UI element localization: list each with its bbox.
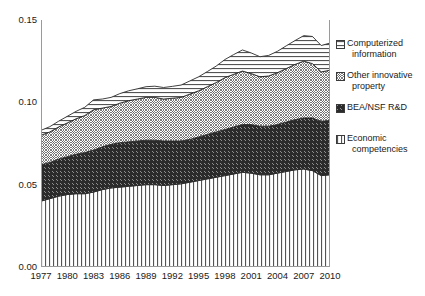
x-tick-label: 1986 xyxy=(109,270,130,281)
legend-swatch-vertical-lines-icon xyxy=(336,135,345,144)
legend-label: BEA/NSF R&D xyxy=(347,102,407,113)
chart-legend: Computerized informationOther innovative… xyxy=(336,38,425,165)
x-tick-label: 1995 xyxy=(188,270,209,281)
x-tick-label: 2001 xyxy=(241,270,262,281)
stacked-area-chart xyxy=(41,20,330,267)
x-tick-label: 1989 xyxy=(136,270,157,281)
legend-item: Other innovative property xyxy=(336,70,425,91)
chart-screenshot: 0.000.050.100.15 xyxy=(0,0,425,296)
x-axis-labels: 1977198019831986198919921995199820012004… xyxy=(41,270,330,286)
legend-label-line1: Other innovative xyxy=(347,70,413,80)
x-tick-label: 1977 xyxy=(30,270,51,281)
x-tick-label: 2004 xyxy=(267,270,288,281)
x-tick-label: 1998 xyxy=(214,270,235,281)
x-tick-label: 1983 xyxy=(83,270,104,281)
legend-label: Economic competencies xyxy=(347,133,408,154)
y-tick-label: 0.15 xyxy=(19,15,38,25)
legend-label-line2: information xyxy=(352,49,397,59)
area-bands xyxy=(41,36,330,267)
legend-item: Computerized information xyxy=(336,38,425,59)
legend-label: Computerized information xyxy=(347,38,403,59)
legend-label-line1: Computerized xyxy=(347,38,403,48)
legend-label: Other innovative property xyxy=(347,70,413,91)
x-tick-label: 2010 xyxy=(319,270,340,281)
x-tick-label: 2007 xyxy=(293,270,314,281)
legend-swatch-cross-hatch-icon xyxy=(336,72,345,81)
legend-item: BEA/NSF R&D xyxy=(336,102,425,113)
legend-swatch-horizontal-lines-icon xyxy=(336,40,345,49)
legend-label-line1: Economic xyxy=(347,133,387,143)
x-tick-label: 1980 xyxy=(57,270,78,281)
y-tick-label: 0.05 xyxy=(19,180,38,190)
y-axis-labels: 0.000.050.100.15 xyxy=(0,0,37,296)
legend-swatch-diagonal-hatch-icon xyxy=(336,104,345,113)
plot-area xyxy=(41,20,330,267)
legend-item: Economic competencies xyxy=(336,133,425,154)
y-tick-label: 0.10 xyxy=(19,97,38,107)
legend-label-line1: BEA/NSF R&D xyxy=(347,102,407,112)
legend-label-line2: property xyxy=(352,81,385,91)
legend-label-line2: competencies xyxy=(352,144,408,154)
x-tick-label: 1992 xyxy=(162,270,183,281)
